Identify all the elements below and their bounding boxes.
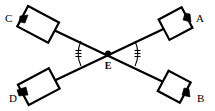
label-a: A <box>196 12 204 24</box>
box-d-rect <box>18 68 60 105</box>
box-c-rect <box>17 6 59 43</box>
label-e: E <box>105 60 112 71</box>
box-b <box>158 71 191 103</box>
box-a <box>159 7 193 40</box>
angle-mark-right <box>135 41 141 66</box>
intersection-point-e <box>105 51 111 57</box>
label-c: C <box>5 12 12 24</box>
diagram-canvas: C A D B E <box>0 0 215 111</box>
angle-mark-left <box>76 41 82 66</box>
box-b-rect <box>158 71 191 103</box>
label-d: D <box>9 92 17 104</box>
box-c <box>17 6 59 43</box>
geometry-diagram: C A D B E <box>0 0 215 111</box>
box-d <box>18 68 60 105</box>
box-a-rect <box>159 7 193 40</box>
label-b: B <box>197 92 204 104</box>
